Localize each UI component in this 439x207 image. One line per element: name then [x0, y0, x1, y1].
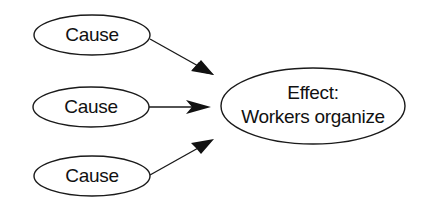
effect-node: Effect: Workers organize — [221, 68, 405, 144]
cause-effect-diagram: Cause Cause Cause Effect: Workers organi… — [0, 0, 439, 207]
edge-cause3-to-effect — [150, 139, 214, 175]
arrow-line — [150, 147, 200, 175]
arrowhead-icon — [191, 139, 214, 154]
arrow-line — [150, 39, 200, 67]
effect-title: Effect: — [287, 82, 338, 103]
cause-label: Cause — [65, 24, 118, 45]
cause-label: Cause — [64, 96, 117, 117]
cause-label: Cause — [65, 165, 118, 186]
cause-node-1: Cause — [34, 15, 150, 55]
cause-node-3: Cause — [34, 156, 150, 196]
edge-cause2-to-effect — [149, 100, 211, 114]
edge-cause1-to-effect — [150, 39, 214, 75]
cause-node-2: Cause — [33, 87, 149, 127]
effect-description: Workers organize — [241, 106, 385, 127]
